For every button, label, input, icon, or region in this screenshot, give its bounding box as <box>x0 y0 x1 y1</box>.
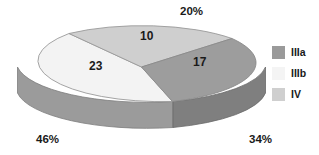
pie-slice-value-iv: 10 <box>140 30 153 42</box>
legend-label-iiia: IIIa <box>291 47 306 58</box>
pie-slice-value-iiia: 17 <box>193 56 206 68</box>
legend-item-iiia: IIIa <box>272 44 318 60</box>
pie-slice-percent-iv: 20% <box>180 6 203 18</box>
pie-slice-percent-iiib: 46% <box>36 134 59 146</box>
legend-label-iiib: IIIb <box>291 68 306 79</box>
legend-swatch-iv <box>272 88 285 101</box>
legend-item-iv: IV <box>272 86 318 102</box>
legend-swatch-iiib <box>272 67 285 80</box>
chart-legend: IIIa IIIb IV <box>272 44 318 107</box>
pie-chart-figure: 10 17 23 20% 34% 46% IIIa IIIb IV <box>0 0 319 155</box>
pie-slice-value-iiib: 23 <box>89 60 102 72</box>
legend-label-iv: IV <box>291 89 301 100</box>
legend-swatch-iiia <box>272 46 285 59</box>
legend-item-iiib: IIIb <box>272 65 318 81</box>
pie-slice-percent-iiia: 34% <box>249 134 272 146</box>
